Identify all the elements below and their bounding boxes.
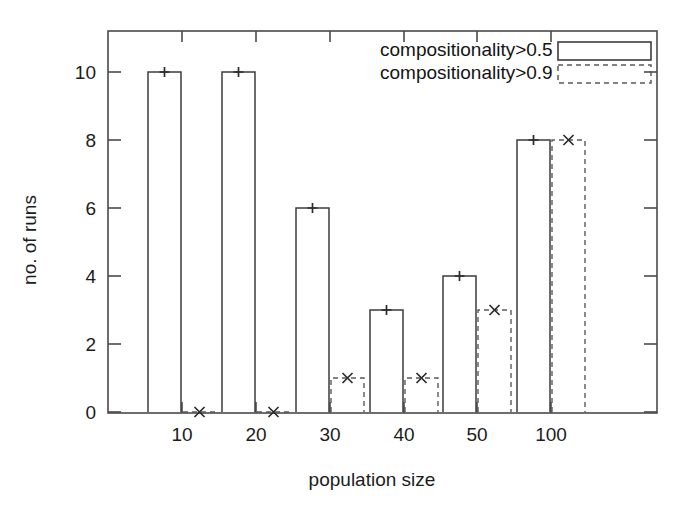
x-tick-label: 100 bbox=[535, 424, 567, 445]
bar-solid bbox=[222, 72, 255, 412]
x-tick-label: 10 bbox=[171, 424, 192, 445]
bar-solid bbox=[517, 140, 550, 412]
plus-marker-icon bbox=[382, 305, 392, 315]
y-tick-label: 10 bbox=[75, 62, 96, 83]
plus-marker-icon bbox=[455, 271, 465, 281]
bar-dashed bbox=[331, 378, 364, 412]
legend-swatch-dashed bbox=[558, 65, 651, 83]
bar-solid bbox=[443, 276, 476, 412]
bar-solid bbox=[148, 72, 181, 412]
bars-layer bbox=[148, 67, 585, 417]
y-axis-title: no. of runs bbox=[19, 195, 40, 285]
bar-dashed bbox=[405, 378, 438, 412]
chart-figure: 10 8 6 4 2 0 10 20 3 bbox=[0, 0, 693, 524]
bar-group bbox=[148, 67, 216, 417]
y-tick-label: 0 bbox=[85, 402, 96, 423]
bar-dashed bbox=[552, 140, 585, 412]
x-tick-label: 20 bbox=[245, 424, 266, 445]
bar-solid bbox=[370, 310, 403, 412]
bar-solid bbox=[296, 208, 329, 412]
plus-marker-icon bbox=[234, 67, 244, 77]
x-axis-title: population size bbox=[309, 469, 436, 490]
y-axis-ticks-right bbox=[644, 72, 657, 412]
y-tick-label: 4 bbox=[85, 266, 96, 287]
legend-swatch-solid bbox=[558, 42, 651, 60]
plus-marker-icon bbox=[160, 67, 170, 77]
legend-label-series-2: compositionality>0.9 bbox=[380, 62, 553, 83]
bar-group bbox=[296, 203, 364, 412]
legend-label-series-1: compositionality>0.5 bbox=[380, 39, 553, 60]
plus-marker-icon bbox=[529, 135, 539, 145]
plus-marker-icon bbox=[308, 203, 318, 213]
x-tick-label: 40 bbox=[393, 424, 414, 445]
y-tick-label: 8 bbox=[85, 130, 96, 151]
y-axis-ticks-left bbox=[108, 72, 121, 412]
bar-dashed bbox=[478, 310, 511, 412]
bar-group bbox=[443, 271, 511, 412]
bar-group bbox=[222, 67, 290, 417]
bar-group bbox=[517, 135, 585, 412]
x-axis-ticks-bottom bbox=[182, 402, 551, 413]
y-tick-labels: 10 8 6 4 2 0 bbox=[75, 62, 97, 423]
x-tick-labels: 10 20 30 40 50 100 bbox=[171, 424, 566, 445]
x-tick-label: 50 bbox=[466, 424, 487, 445]
y-tick-label: 6 bbox=[85, 198, 96, 219]
bar-chart-svg: 10 8 6 4 2 0 10 20 3 bbox=[0, 0, 693, 524]
bar-group bbox=[370, 305, 438, 412]
y-tick-label: 2 bbox=[85, 334, 96, 355]
x-tick-label: 30 bbox=[319, 424, 340, 445]
legend: compositionality>0.5 compositionality>0.… bbox=[380, 39, 651, 83]
plot-frame bbox=[108, 31, 657, 413]
